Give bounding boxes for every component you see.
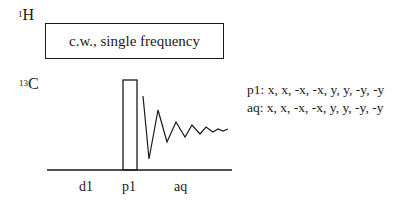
timing-label-aq: aq (174, 179, 187, 195)
phase-cycle-p1: p1: x, x, -x, -x, y, y, -y, -y (247, 81, 384, 99)
timing-label-d1: d1 (79, 179, 93, 195)
p1-pulse-rect (123, 80, 137, 170)
fid-signal (143, 96, 228, 159)
phase-cycle-aq: aq: x, x, -x, -x, y, y, -y, -y (247, 99, 383, 117)
timing-label-p1: p1 (122, 179, 136, 195)
